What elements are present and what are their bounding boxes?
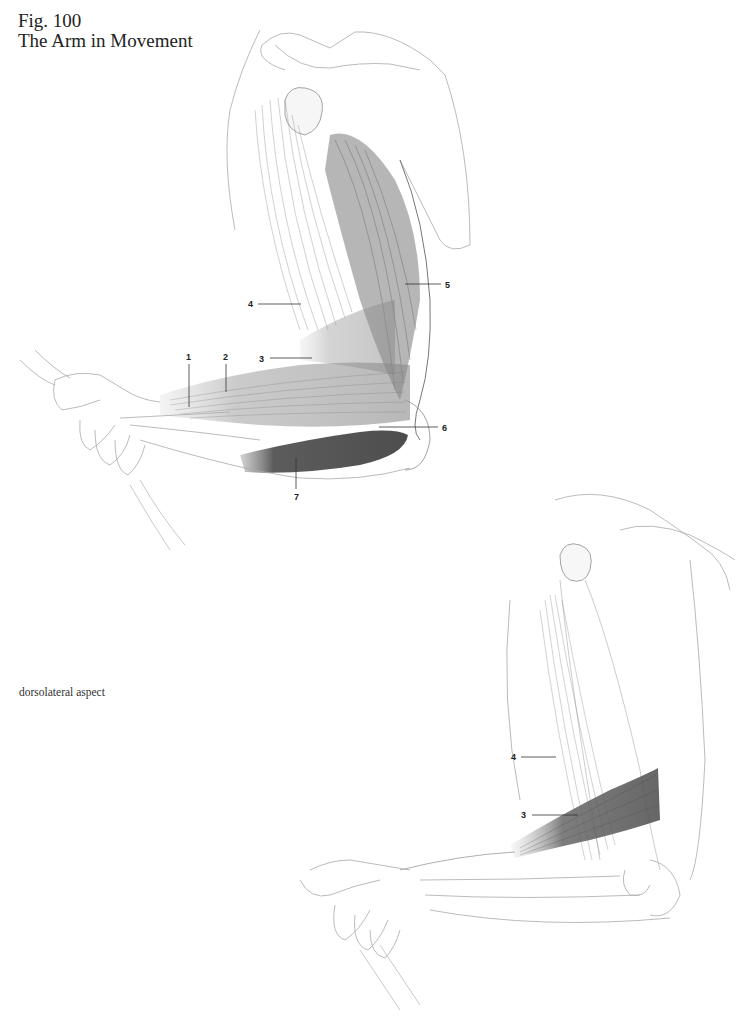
label-number-lower-3: 3	[521, 810, 526, 820]
label-number-upper-7: 7	[294, 492, 299, 502]
label-number-lower-4: 4	[511, 752, 516, 762]
label-number-upper-3: 3	[259, 354, 264, 364]
label-number-upper-1: 1	[186, 352, 191, 362]
figure-page: Fig. 100 The Arm in Movement dorsolatera…	[0, 0, 739, 1019]
label-number-upper-6: 6	[442, 423, 447, 433]
label-leader-lines	[0, 0, 739, 1019]
label-number-upper-5: 5	[445, 280, 450, 290]
label-number-upper-2: 2	[223, 352, 228, 362]
label-number-upper-4: 4	[248, 299, 253, 309]
